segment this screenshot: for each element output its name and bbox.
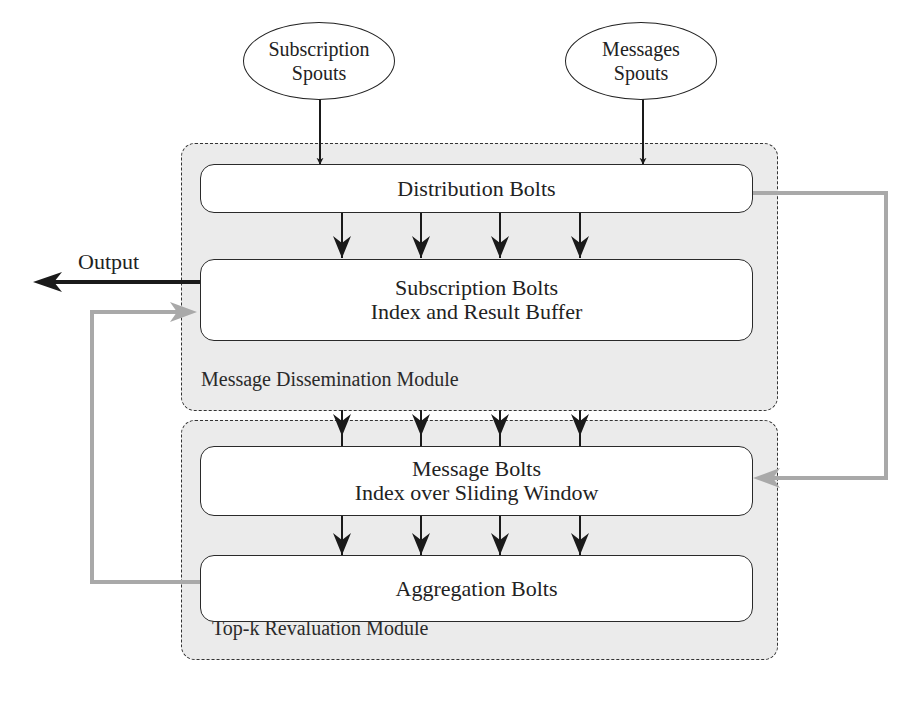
distribution-to-subscription-arrowheads [333,236,589,258]
output-arrow [33,272,200,292]
distribution-to-subscription-arrows [342,212,580,258]
message-bolts-label: Message Bolts [412,457,541,481]
distribution-bolts: Distribution Bolts [200,164,753,213]
subscription-spouts-line2: Spouts [292,61,346,85]
message-to-aggregation-arrows [342,515,580,555]
subscription-bolts-label: Subscription Bolts [395,276,558,300]
dissemination-to-message-arrows [342,410,580,446]
subscription-spouts-line1: Subscription [268,37,369,61]
messages-spouts-line2: Spouts [614,61,668,85]
dissemination-to-message-arrowheads [333,414,589,436]
spout-to-distribution-arrows [320,98,643,164]
subscription-bolts: Subscription Bolts Index and Result Buff… [200,259,753,341]
message-to-aggregation-arrowheads [333,533,589,555]
aggregation-bolts-label: Aggregation Bolts [396,577,558,601]
distribution-to-message-feedback [752,193,886,478]
output-label: Output [78,250,139,274]
aggregation-to-subscription-feedback [92,312,200,582]
message-bolts-sublabel: Index over Sliding Window [355,481,599,505]
messages-spouts-line1: Messages [602,37,680,61]
message-bolts: Message Bolts Index over Sliding Window [200,446,753,516]
aggregation-bolts: Aggregation Bolts [200,555,753,622]
subscription-spouts: Subscription Spouts [243,22,395,100]
subscription-bolts-sublabel: Index and Result Buffer [371,300,583,324]
distribution-bolts-label: Distribution Bolts [397,177,555,201]
messages-spouts: Messages Spouts [565,22,717,100]
